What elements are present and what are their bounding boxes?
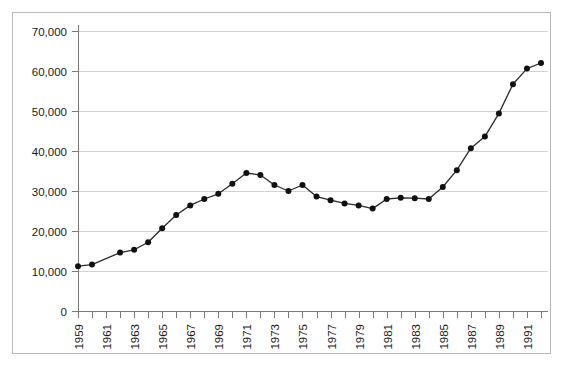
chart-screenshot: 010,00020,00030,00040,00050,00060,00070,… bbox=[0, 0, 565, 369]
chart-frame-border bbox=[12, 12, 551, 354]
